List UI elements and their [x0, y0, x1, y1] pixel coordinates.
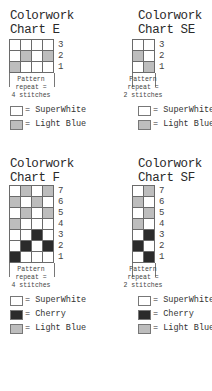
legend-label: = Light Blue: [153, 119, 212, 129]
pattern-repeat-note: Patternrepeat =2 stitches: [113, 76, 173, 100]
row-number: 2: [159, 52, 164, 61]
row-number: 3: [159, 231, 164, 240]
chart-cell: [42, 251, 54, 263]
pattern-repeat-note: Patternrepeat =4 stitches: [1, 266, 61, 290]
legend-label: = Cherry: [153, 309, 194, 319]
color-swatch-icon: [10, 324, 23, 334]
repeat-text-line: Pattern: [113, 266, 173, 274]
row-number: 2: [58, 242, 63, 251]
chart-title-line2: Chart E: [10, 23, 74, 37]
chart-title-line2: Chart F: [10, 171, 74, 185]
chart-title-line1: Colorwork: [138, 9, 202, 23]
chart-f: Colorwork Chart F 7654321Patternrepeat =…: [10, 157, 74, 185]
legend-label: = Light Blue: [153, 323, 212, 333]
legend-label: = SuperWhite: [25, 105, 86, 115]
chart-cell: [143, 61, 155, 73]
row-number: 6: [159, 198, 164, 207]
repeat-text-line: repeat =: [1, 84, 61, 92]
color-swatch-icon: [138, 106, 151, 116]
color-swatch-icon: [10, 106, 23, 116]
row-number: 5: [58, 209, 63, 218]
color-swatch-icon: [10, 310, 23, 320]
color-swatch-icon: [138, 310, 151, 320]
row-number: 7: [58, 187, 63, 196]
row-number: 1: [58, 63, 63, 72]
legend-label: = SuperWhite: [153, 295, 212, 305]
row-number: 1: [159, 63, 164, 72]
repeat-text-line: 4 stitches: [1, 92, 61, 100]
row-number: 1: [58, 253, 63, 262]
chart-se: Colorwork Chart SE 321Patternrepeat =2 s…: [138, 9, 202, 37]
row-number: 4: [159, 220, 164, 229]
color-swatch-icon: [138, 120, 151, 130]
repeat-text-line: 2 stitches: [113, 92, 173, 100]
chart-title-line2: Chart SF: [138, 171, 202, 185]
repeat-text-line: repeat =: [1, 274, 61, 282]
row-number: 2: [159, 242, 164, 251]
chart-cell: [42, 61, 54, 73]
repeat-text-line: repeat =: [113, 84, 173, 92]
legend-label: = Cherry: [25, 309, 66, 319]
row-number: 6: [58, 198, 63, 207]
pattern-repeat-note: Patternrepeat =4 stitches: [1, 76, 61, 100]
color-swatch-icon: [138, 324, 151, 334]
chart-title-line1: Colorwork: [10, 157, 74, 171]
row-number: 3: [58, 231, 63, 240]
repeat-text-line: Pattern: [1, 266, 61, 274]
color-swatch-icon: [138, 296, 151, 306]
color-swatch-icon: [10, 296, 23, 306]
repeat-text-line: 2 stitches: [113, 282, 173, 290]
repeat-text-line: repeat =: [113, 274, 173, 282]
row-number: 5: [159, 209, 164, 218]
row-number: 7: [159, 187, 164, 196]
chart-title-line2: Chart SE: [138, 23, 202, 37]
color-swatch-icon: [10, 120, 23, 130]
row-number: 2: [58, 52, 63, 61]
row-number: 1: [159, 253, 164, 262]
chart-sf: Colorwork Chart SF 7654321Patternrepeat …: [138, 157, 202, 185]
pattern-repeat-note: Patternrepeat =2 stitches: [113, 266, 173, 290]
row-number: 3: [159, 41, 164, 50]
legend-label: = Light Blue: [25, 119, 86, 129]
repeat-text-line: 4 stitches: [1, 282, 61, 290]
chart-title-line1: Colorwork: [10, 9, 74, 23]
row-number: 4: [58, 220, 63, 229]
legend-label: = Light Blue: [25, 323, 86, 333]
chart-cell: [143, 251, 155, 263]
chart-title-line1: Colorwork: [138, 157, 202, 171]
legend-label: = SuperWhite: [153, 105, 212, 115]
legend-label: = SuperWhite: [25, 295, 86, 305]
row-number: 3: [58, 41, 63, 50]
chart-e: Colorwork Chart E 321Patternrepeat =4 st…: [10, 9, 74, 37]
repeat-text-line: Pattern: [1, 76, 61, 84]
repeat-text-line: Pattern: [113, 76, 173, 84]
